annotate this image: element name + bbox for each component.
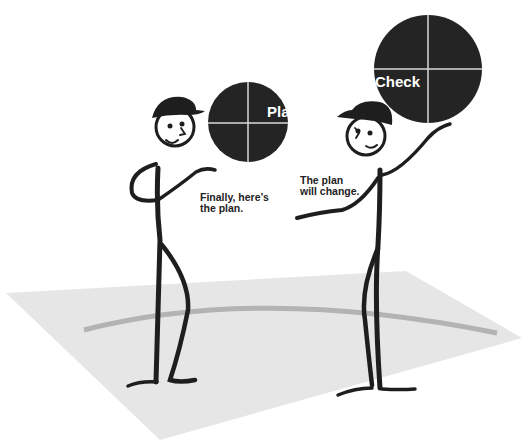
right-figure-caption: The plan will change. [300,175,360,197]
right-caption-line-2: will change. [300,186,360,197]
plan-circle-label: Plan [267,104,299,120]
plan-circle [208,82,288,162]
check-circle [374,15,482,123]
left-caption-line-2: the plan. [200,203,269,214]
illustration-scene [0,0,522,440]
check-circle-label: Check [375,74,420,90]
floor-plane [6,271,522,440]
left-figure-caption: Finally, here’s the plan. [200,192,269,214]
right-figure-head [347,117,385,155]
